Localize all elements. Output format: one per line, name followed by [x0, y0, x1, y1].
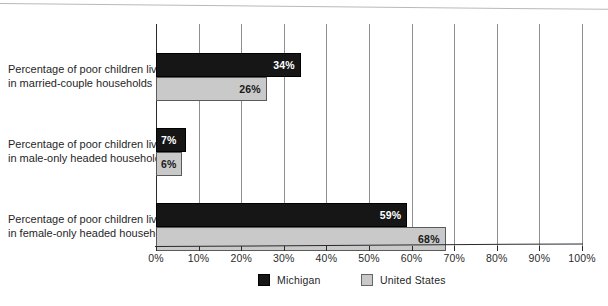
legend-item-united-states: United States	[361, 274, 446, 286]
x-axis-tick-20	[241, 246, 242, 251]
plot-area: 34%26%7%6%59%68%	[156, 24, 582, 246]
x-axis-tick-label-40: 40%	[316, 252, 338, 264]
x-axis-tick-10	[199, 246, 200, 251]
x-axis-tick-label-10: 10%	[188, 252, 210, 264]
legend-item-michigan: Michigan	[258, 274, 321, 286]
x-axis-tick-90	[539, 246, 540, 251]
category-label-line: Percentage of poor children living	[8, 137, 150, 151]
x-axis-tick-label-70: 70%	[443, 252, 465, 264]
category-label-0: Percentage of poor children livingin mar…	[8, 62, 150, 90]
x-axis-tick-label-60: 60%	[401, 252, 423, 264]
category-label-1: Percentage of poor children livingin mal…	[8, 137, 150, 165]
chart-legend: Michigan United States	[0, 272, 608, 292]
category-label-line: in female-only headed households	[8, 226, 150, 240]
x-axis-tick-30	[284, 246, 285, 251]
x-axis-tick-0	[156, 246, 157, 251]
category-label-line: Percentage of poor children living	[8, 212, 150, 226]
gridline-70	[454, 24, 455, 246]
x-axis-tick-100	[582, 246, 583, 251]
bar-value-label: 6%	[161, 158, 177, 170]
bar-value-label: 7%	[161, 134, 177, 146]
x-axis-tick-50	[369, 246, 370, 251]
legend-label-michigan: Michigan	[277, 274, 321, 286]
x-axis-tick-80	[497, 246, 498, 251]
x-axis-tick-60	[412, 246, 413, 251]
x-axis-tick-40	[326, 246, 327, 251]
x-axis-tick-label-0: 0%	[148, 252, 164, 264]
category-label-line: in married-couple households	[8, 76, 150, 90]
x-axis-tick-label-100: 100%	[568, 252, 596, 264]
x-axis-tick-label-30: 30%	[273, 252, 295, 264]
bar-value-label: 68%	[418, 233, 440, 245]
category-label-line: Percentage of poor children living	[8, 62, 150, 76]
bar-us-1: 6%	[156, 152, 182, 176]
bar-chart: Percentage of poor children livingin mar…	[0, 0, 608, 306]
bar-value-label: 34%	[273, 59, 295, 71]
x-axis-tick-label-90: 90%	[529, 252, 551, 264]
x-axis-tick-label-50: 50%	[358, 252, 380, 264]
gridline-60	[412, 24, 413, 246]
bar-michigan-2: 59%	[156, 203, 407, 227]
bar-michigan-1: 7%	[156, 128, 186, 152]
legend-swatch-michigan-icon	[258, 274, 270, 286]
x-axis-tick-70	[454, 246, 455, 251]
bar-us-0: 26%	[156, 77, 267, 101]
category-label-2: Percentage of poor children livingin fem…	[8, 212, 150, 240]
gridline-90	[539, 24, 540, 246]
x-axis-tick-label-20: 20%	[230, 252, 252, 264]
category-label-line: in male-only headed households	[8, 151, 150, 165]
gridline-100	[582, 24, 583, 246]
bar-value-label: 59%	[380, 209, 402, 221]
bar-value-label: 26%	[239, 83, 261, 95]
bar-michigan-0: 34%	[156, 53, 301, 77]
x-axis-tick-label-80: 80%	[486, 252, 508, 264]
legend-label-united-states: United States	[380, 274, 446, 286]
legend-swatch-united-states-icon	[361, 274, 373, 286]
gridline-80	[497, 24, 498, 246]
